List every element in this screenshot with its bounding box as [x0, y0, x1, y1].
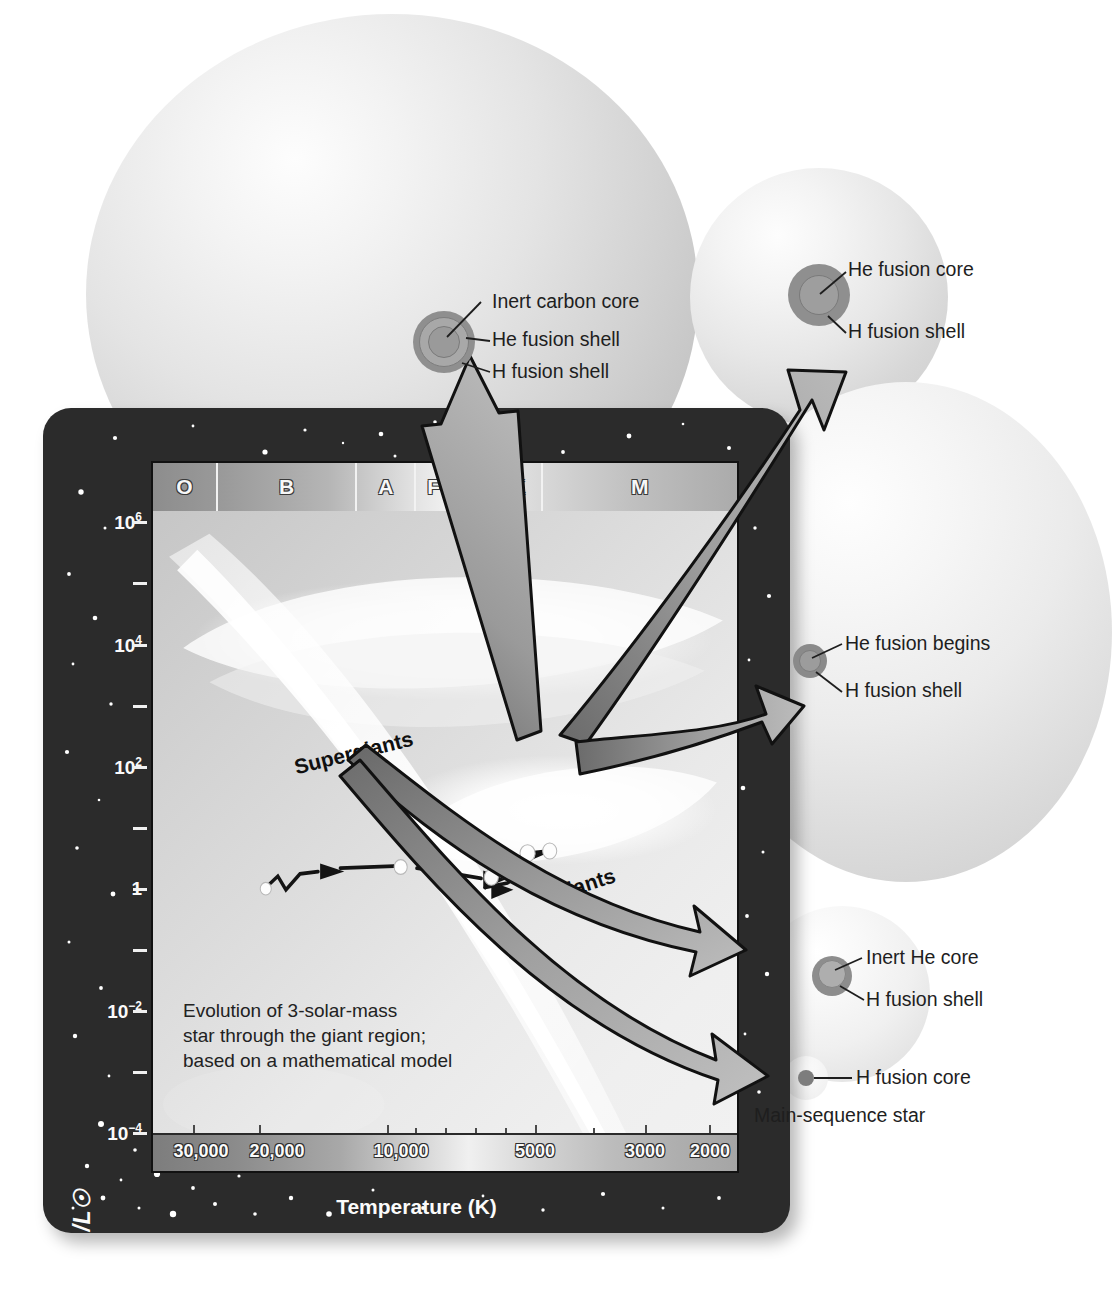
main-sequence-star-caption: Main-sequence star — [754, 1104, 925, 1126]
main-sequence-label-h-fusion-core: H fusion core — [856, 1066, 971, 1088]
